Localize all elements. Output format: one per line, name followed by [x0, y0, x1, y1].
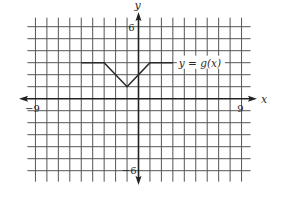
y-axis-label: y [133, 0, 141, 12]
y-tick-label-max: 6 [128, 22, 134, 33]
y-tick-label-min: −6 [122, 165, 137, 176]
x-tick-label-max: 9 [237, 103, 243, 114]
coordinate-plane: x y −9 9 6 −6 y = g(x) [0, 0, 285, 197]
x-axis-label: x [261, 93, 268, 106]
curve-label: y = g(x) [178, 57, 221, 69]
x-tick-label-min: −9 [25, 103, 40, 114]
